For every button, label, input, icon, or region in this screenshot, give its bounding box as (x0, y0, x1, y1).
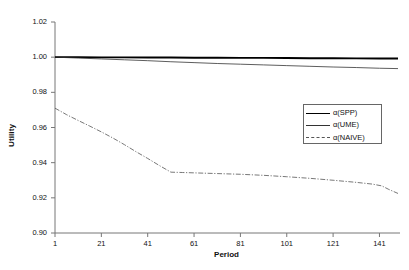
y-tick-label: 0.94 (17, 158, 47, 167)
legend-item-ume[interactable]: α(UME) (304, 119, 381, 131)
legend-swatch-spp-icon (306, 108, 330, 118)
legend-label-spp: α(SPP) (333, 108, 357, 117)
x-tick-label: 81 (225, 239, 255, 248)
y-tick-label: 1.02 (17, 17, 47, 26)
legend-label-ume: α(UME) (333, 120, 359, 129)
x-axis-title: Period (55, 250, 398, 259)
y-tick-label: 0.90 (17, 228, 47, 237)
y-tick-label: 1.00 (17, 52, 47, 61)
legend-swatch-naive-icon (306, 132, 330, 142)
x-tick-label: 141 (364, 239, 394, 248)
x-tick-label: 61 (179, 239, 209, 248)
y-tick-label: 0.96 (17, 123, 47, 132)
x-tick-label: 21 (86, 239, 116, 248)
x-tick-label: 1 (40, 239, 70, 248)
series-line-0 (55, 57, 398, 58)
y-tick-label: 0.92 (17, 193, 47, 202)
x-tick-label: 101 (272, 239, 302, 248)
legend: α(SPP) α(UME) α(NAIVE) (303, 104, 382, 144)
legend-swatch-ume-icon (306, 120, 330, 130)
y-tick-label: 0.98 (17, 87, 47, 96)
legend-item-spp[interactable]: α(SPP) (304, 107, 381, 119)
legend-item-naive[interactable]: α(NAIVE) (304, 131, 381, 143)
x-tick-label: 121 (318, 239, 348, 248)
x-tick-label: 41 (133, 239, 163, 248)
legend-label-naive: α(NAIVE) (333, 133, 365, 142)
chart-figure: Utility 0.900.920.940.960.981.001.02 121… (0, 0, 409, 270)
